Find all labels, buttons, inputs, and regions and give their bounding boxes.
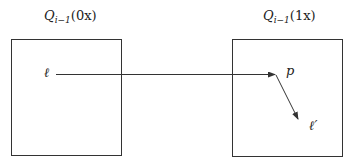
point-ell-prime-label: ℓ′ (309, 118, 317, 134)
right-label-main: Q (263, 8, 274, 23)
point-p-label: p (286, 63, 294, 78)
point-ell-label: ℓ (44, 65, 49, 81)
right-box-label: Qi−1(1x) (263, 8, 316, 25)
left-box (12, 40, 122, 156)
right-label-arg: (1x) (290, 8, 316, 23)
left-label-arg: (0x) (71, 8, 97, 23)
left-box-label: Qi−1(0x) (44, 8, 97, 25)
left-label-sub: i−1 (55, 15, 71, 25)
arrow-p-to-ell-prime (276, 75, 298, 119)
right-label-sub: i−1 (274, 15, 290, 25)
left-label-main: Q (44, 8, 55, 23)
